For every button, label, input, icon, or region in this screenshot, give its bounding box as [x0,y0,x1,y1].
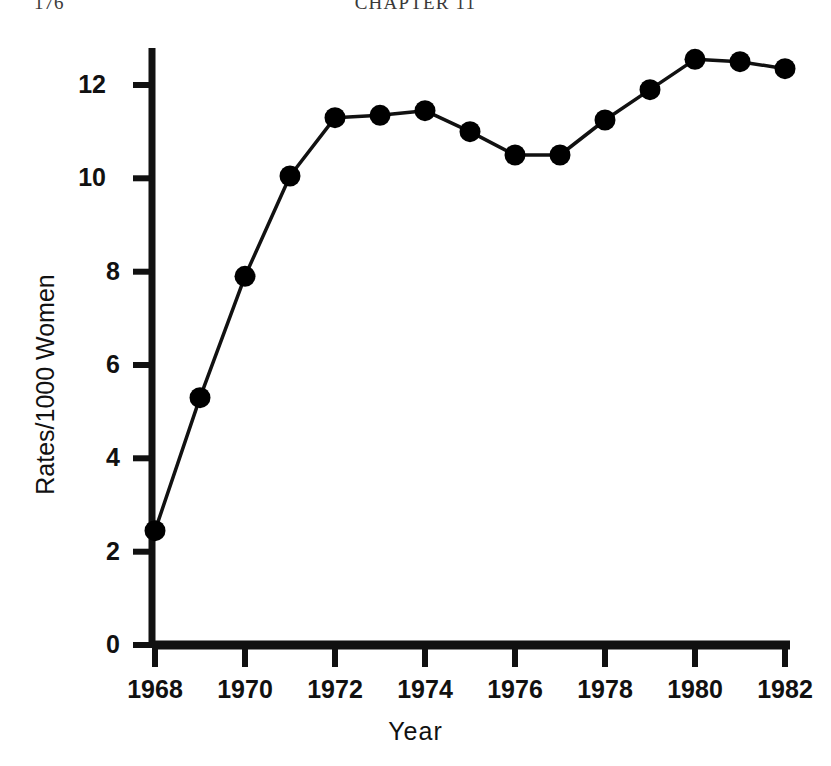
data-point-1976 [505,145,526,166]
data-point-1970 [235,266,256,287]
data-point-1975 [460,121,481,142]
plot-area [0,0,831,766]
data-point-1971 [280,166,301,187]
data-point-markers [145,49,796,541]
y-tick-label-12: 12 [62,70,106,99]
y-tick-label-6: 6 [76,350,120,379]
y-tick-label-10: 10 [62,163,106,192]
data-point-1979 [640,79,661,100]
x-tick-label-1968: 1968 [110,675,200,704]
data-point-1968 [145,520,166,541]
y-tick-label-0: 0 [76,630,120,659]
data-point-1977 [550,145,571,166]
x-tick-label-1978: 1978 [560,675,650,704]
data-point-1973 [370,105,391,126]
x-tick-label-1980: 1980 [650,675,740,704]
x-tick-label-1972: 1972 [290,675,380,704]
data-point-1972 [325,107,346,128]
data-point-1982 [775,58,796,79]
x-tick-label-1982: 1982 [740,675,830,704]
y-tick-label-2: 2 [76,537,120,566]
data-point-1981 [730,51,751,72]
x-tick-label-1970: 1970 [200,675,290,704]
data-point-1978 [595,110,616,131]
y-axis-title: Rates/1000 Women [31,255,60,515]
line-chart-figure: 0 2 4 6 8 10 12 1968 1970 1972 1974 1976… [0,0,831,766]
data-point-1969 [190,387,211,408]
data-point-1974 [415,100,436,121]
data-point-1980 [685,49,706,70]
x-axis-title: Year [0,717,831,746]
x-tick-label-1976: 1976 [470,675,560,704]
y-tick-label-4: 4 [76,443,120,472]
x-tick-label-1974: 1974 [380,675,470,704]
y-tick-label-8: 8 [76,257,120,286]
